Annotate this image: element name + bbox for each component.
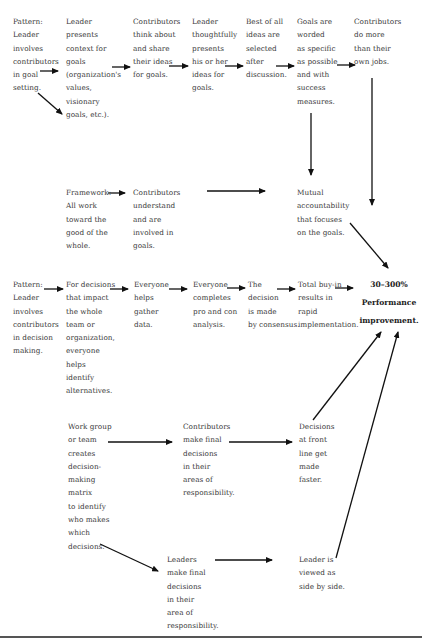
step-leader-presents-ideas: Leader thoughtfully presents his or her … <box>192 15 237 95</box>
pattern-decision-making: Pattern: Leader involves contributors in… <box>13 278 59 358</box>
step-contributors-share-ideas: Contributors think about and share their… <box>133 15 180 81</box>
step-contributors-do-more: Contributors do more than their own jobs… <box>354 15 401 68</box>
workgroup-decision-matrix: Work group or team creates decision- mak… <box>68 420 112 553</box>
step-goals-worded: Goals are worded as specific as possible… <box>297 15 338 108</box>
framework-contributors-understand: Contributors understand and are involved… <box>133 186 180 252</box>
step-total-buy-in: Total buy-in results in rapid implementa… <box>298 278 358 331</box>
step-gather-data: Everyone helps gather data. <box>134 278 169 331</box>
performance-improvement-result: 30–300% Performance improvement. <box>356 276 422 330</box>
framework-label: Framework: All work toward the good of t… <box>66 186 111 252</box>
contributors-make-final-decisions: Contributors make final decisions in the… <box>183 420 234 500</box>
leader-side-by-side: Leader is viewed as side by side. <box>299 553 345 593</box>
leaders-make-final-decisions: Leaders make final decisions in their ar… <box>167 553 218 633</box>
step-identify-alternatives: For decisions that impact the whole team… <box>66 278 115 398</box>
bottom-rule <box>0 636 422 638</box>
mutual-accountability: Mutual accountability that focuses on th… <box>297 186 349 239</box>
step-pro-con-analysis: Everyone completes pro and con analysis. <box>193 278 237 331</box>
front-line-decisions-faster: Decisions at front line get made faster. <box>299 420 335 486</box>
step-leader-presents-context: Leader presents context for goals (organ… <box>66 15 121 121</box>
pattern-goal-setting: Pattern: Leader involves contributors in… <box>13 15 59 95</box>
step-consensus: The decision is made by consensus. <box>248 278 300 331</box>
step-best-ideas-selected: Best of all ideas are selected after dis… <box>246 15 287 81</box>
